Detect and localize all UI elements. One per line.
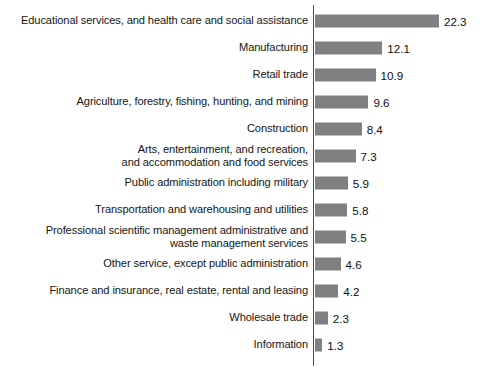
bar-row: Retail trade10.9 (0, 61, 482, 88)
bar-row: Arts, entertainment, and recreation, and… (0, 142, 482, 169)
category-label: Manufacturing (8, 41, 308, 54)
bar-row: Professional scientific management admin… (0, 223, 482, 250)
bar (315, 14, 439, 27)
bar-row: Finance and insurance, real estate, rent… (0, 277, 482, 304)
bar (315, 230, 346, 243)
bar-row: Public administration including military… (0, 169, 482, 196)
value-label: 4.6 (346, 257, 362, 270)
bar-row: Wholesale trade2.3 (0, 304, 482, 331)
category-label: Arts, entertainment, and recreation, and… (8, 142, 308, 168)
bar (315, 311, 328, 324)
category-label: Retail trade (8, 68, 308, 81)
bar (315, 257, 341, 270)
bar (315, 68, 376, 81)
value-label: 10.9 (381, 68, 404, 81)
bar-row: Construction8.4 (0, 115, 482, 142)
category-label: Wholesale trade (8, 311, 308, 324)
bar (315, 95, 368, 108)
bar-rows: Educational services, and health care an… (0, 0, 482, 381)
value-label: 2.3 (333, 311, 349, 324)
category-label: Public administration including military (8, 176, 308, 189)
value-label: 8.4 (367, 122, 383, 135)
bar-row: Agriculture, forestry, fishing, hunting,… (0, 88, 482, 115)
bar (315, 338, 322, 351)
bar (315, 41, 382, 54)
value-label: 5.9 (353, 176, 369, 189)
bar (315, 203, 347, 216)
bar-row: Information1.3 (0, 331, 482, 358)
bar-row: Educational services, and health care an… (0, 7, 482, 34)
category-label: Construction (8, 122, 308, 135)
value-label: 12.1 (387, 41, 410, 54)
bar (315, 284, 338, 297)
value-label: 5.8 (352, 203, 368, 216)
value-label: 22.3 (444, 14, 467, 27)
plot-area: Educational services, and health care an… (0, 0, 482, 381)
category-label: Information (8, 338, 308, 351)
value-label: 4.2 (343, 284, 359, 297)
category-label: Finance and insurance, real estate, rent… (8, 284, 308, 297)
category-label: Professional scientific management admin… (8, 223, 308, 249)
value-label: 9.6 (373, 95, 389, 108)
category-label: Other service, except public administrat… (8, 257, 308, 270)
bar (315, 176, 348, 189)
bar-row: Transportation and warehousing and utili… (0, 196, 482, 223)
value-label: 7.3 (361, 149, 377, 162)
category-label: Agriculture, forestry, fishing, hunting,… (8, 95, 308, 108)
bar-row: Manufacturing12.1 (0, 34, 482, 61)
category-label: Transportation and warehousing and utili… (8, 203, 308, 216)
value-label: 1.3 (327, 338, 343, 351)
bar (315, 122, 362, 135)
bar (315, 149, 356, 162)
bar-chart: Educational services, and health care an… (0, 0, 482, 381)
category-label: Educational services, and health care an… (8, 14, 308, 27)
bar-row: Other service, except public administrat… (0, 250, 482, 277)
value-label: 5.5 (351, 230, 367, 243)
